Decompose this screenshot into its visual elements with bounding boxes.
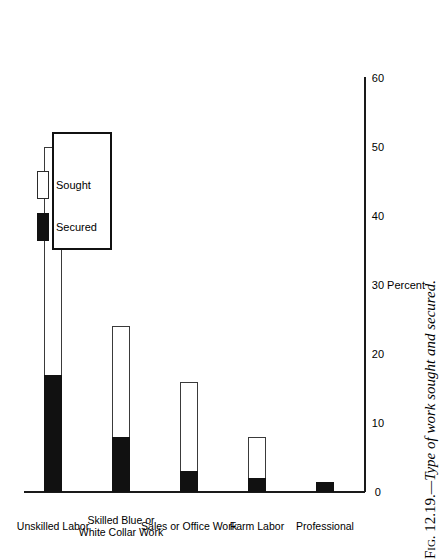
caption-title: Type of work sought and secured. [422, 280, 438, 481]
legend-box: Sought Secured [52, 132, 112, 250]
legend-label-secured: Secured [56, 221, 97, 233]
tick-label-40: 40 [372, 210, 385, 222]
figure-number: Fig. 12.19. [422, 494, 438, 559]
tick-label-0: 0 [375, 486, 381, 498]
figure-container: Unskilled LaborSkilled Blue orWhite Coll… [0, 0, 440, 560]
category-label-line: Farm Labor [229, 520, 283, 532]
tick-label-10: 10 [372, 417, 385, 429]
bar-sales-or-office-work [180, 382, 198, 492]
caption-dash: — [422, 481, 438, 494]
tick-label-30: 30 [372, 279, 385, 291]
bar-professional [316, 482, 334, 492]
legend-swatch-secured-icon [37, 213, 49, 241]
category-label-line: Sales or Office Work [141, 520, 237, 532]
legend-label-sought: Sought [56, 179, 91, 191]
value-axis-line [364, 77, 366, 492]
bar-segment-secured [112, 437, 130, 492]
bar-segment-secured [316, 482, 334, 492]
bar-skilled-blue-or-white-collar-work [112, 326, 130, 492]
tick-label-60: 60 [372, 72, 385, 84]
legend-inner: Sought Secured [25, 163, 139, 219]
bar-segment-secured [44, 375, 62, 492]
category-label: Farm Labor [229, 520, 283, 532]
category-label-line: Professional [296, 520, 354, 532]
legend-item-sought: Sought [37, 171, 91, 199]
category-label: Professional [296, 520, 354, 532]
tick-label-50: 50 [372, 141, 385, 153]
tick-label-20: 20 [372, 348, 385, 360]
legend-swatch-sought-icon [37, 171, 49, 199]
bar-segment-secured [248, 478, 266, 492]
category-label: Sales or Office Work [141, 520, 237, 532]
figure-caption: Fig. 12.19.—Type of work sought and secu… [422, 280, 439, 559]
value-axis-title: Percent [387, 279, 425, 291]
bar-farm-labor [248, 437, 266, 492]
chart-plot: Unskilled LaborSkilled Blue orWhite Coll… [10, 10, 430, 550]
bar-segment-secured [180, 471, 198, 492]
legend-item-secured: Secured [37, 213, 97, 241]
